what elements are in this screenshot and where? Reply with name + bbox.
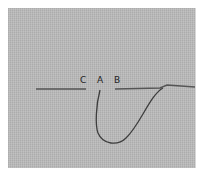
label-c: C	[80, 76, 86, 85]
thread-diagram	[0, 0, 201, 175]
label-b: B	[114, 76, 120, 85]
stitch-line-right	[115, 85, 195, 89]
thread-loop	[96, 88, 163, 143]
label-a: A	[97, 76, 103, 85]
